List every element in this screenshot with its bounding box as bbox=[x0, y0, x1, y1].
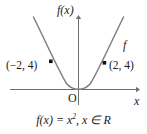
equation-domain: , x ∈ R bbox=[76, 113, 111, 127]
left-point-marker bbox=[49, 60, 53, 64]
right-point-label: (2, 4) bbox=[109, 60, 134, 72]
equation-lhs: f(x) = bbox=[36, 113, 67, 127]
right-point-marker bbox=[103, 61, 107, 65]
x-axis-label: x bbox=[134, 95, 139, 107]
curve-label: f bbox=[123, 39, 126, 51]
origin-label: O bbox=[68, 92, 77, 104]
left-point-label: (−2, 4) bbox=[6, 60, 37, 72]
parabola-figure: f(x) x O f (−2, 4) (2, 4) f(x) = x2, x ∈… bbox=[0, 0, 147, 134]
equation-caption: f(x) = x2, x ∈ R bbox=[0, 113, 147, 126]
y-axis-label: f(x) bbox=[57, 4, 74, 16]
